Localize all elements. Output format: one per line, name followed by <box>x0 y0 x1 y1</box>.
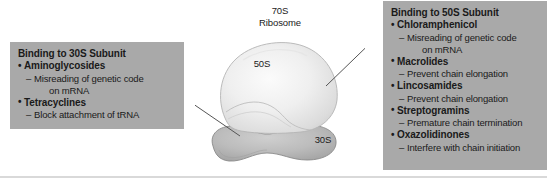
subunit-50s-shape <box>221 43 338 134</box>
drug-effect-continuation: on mRNA <box>18 85 178 97</box>
list-item: •Lincosamides –Prevent chain elongation <box>391 80 541 105</box>
drug-effect-tetracyclines: –Block attachment of tRNA <box>18 109 178 121</box>
dash-icon: – <box>399 142 404 154</box>
ribosome-illustration: 70S Ribosome 50S 30S <box>195 0 365 183</box>
bullet-icon: • <box>391 55 394 68</box>
list-item: •Macrolides –Prevent chain elongation <box>391 56 541 81</box>
list-item: •Streptogramins –Premature chain termina… <box>391 105 541 130</box>
dash-icon: – <box>26 73 31 85</box>
ribosome-70s-label: 70S Ribosome <box>195 5 365 29</box>
subunit-50s-label: 50S <box>240 58 284 70</box>
effect-label: Interfere with chain initiation <box>407 142 520 153</box>
drug-name-streptogramins: •Streptogramins <box>391 105 541 118</box>
drug-label: Oxazolidinones <box>397 129 470 140</box>
dash-icon: – <box>26 109 31 121</box>
list-item: •Aminoglycosides –Misreading of genetic … <box>18 60 178 97</box>
drug-effect-continuation: on mRNA <box>391 44 541 56</box>
antibiotic-ribosome-diagram: Binding to 30S Subunit •Aminoglycosides … <box>0 0 547 183</box>
effect-label: Block attachment of tRNA <box>34 109 139 120</box>
drug-effect-macrolides: –Prevent chain elongation <box>391 68 541 80</box>
bottom-divider <box>0 176 547 178</box>
drug-effect-streptogramins: –Premature chain termination <box>391 117 541 129</box>
list-item: •Tetracyclines –Block attachment of tRNA <box>18 97 178 122</box>
ribosome-70s-line2: Ribosome <box>195 17 365 29</box>
drug-label: Macrolides <box>397 56 448 67</box>
ribosome-70s-line1: 70S <box>195 5 365 17</box>
drug-effect-aminoglycosides: –Misreading of genetic code <box>18 73 178 85</box>
drug-label: Lincosamides <box>397 80 463 91</box>
dash-icon: – <box>399 93 404 105</box>
drug-label: Tetracyclines <box>24 97 86 108</box>
drug-label: Aminoglycosides <box>24 60 105 71</box>
effect-label: Premature chain termination <box>407 117 522 128</box>
bullet-icon: • <box>391 129 394 142</box>
drug-name-chloramphenicol: •Chloramphenicol <box>391 19 541 32</box>
drug-name-lincosamides: •Lincosamides <box>391 80 541 93</box>
callout-title-30s: Binding to 30S Subunit <box>18 47 178 60</box>
bullet-icon: • <box>391 80 394 93</box>
drug-effect-chloramphenicol: –Misreading of genetic code <box>391 32 541 44</box>
drug-name-tetracyclines: •Tetracyclines <box>18 97 178 110</box>
dash-icon: – <box>399 117 404 129</box>
drug-name-aminoglycosides: •Aminoglycosides <box>18 60 178 73</box>
drug-effect-lincosamides: –Prevent chain elongation <box>391 93 541 105</box>
bullet-icon: • <box>18 60 21 73</box>
effect-label: Misreading of genetic code <box>34 73 144 84</box>
callout-box-30s: Binding to 30S Subunit •Aminoglycosides … <box>10 42 184 129</box>
callout-box-50s: Binding to 50S Subunit •Chloramphenicol … <box>383 1 547 170</box>
effect-label: Prevent chain elongation <box>407 93 508 104</box>
bullet-icon: • <box>18 96 21 109</box>
list-item: •Oxazolidinones –Interfere with chain in… <box>391 129 541 154</box>
drug-effect-oxazolidinones: –Interfere with chain initiation <box>391 142 541 154</box>
dash-icon: – <box>399 68 404 80</box>
callout-title-50s: Binding to 50S Subunit <box>391 6 541 19</box>
drug-list-50s: •Chloramphenicol –Misreading of genetic … <box>391 19 541 154</box>
drug-list-30s: •Aminoglycosides –Misreading of genetic … <box>18 60 178 121</box>
effect-label: Misreading of genetic code <box>407 32 517 43</box>
list-item: •Chloramphenicol –Misreading of genetic … <box>391 19 541 56</box>
bullet-icon: • <box>391 19 394 32</box>
dash-icon: – <box>399 32 404 44</box>
drug-name-macrolides: •Macrolides <box>391 56 541 69</box>
drug-label: Streptogramins <box>397 105 470 116</box>
subunit-30s-label: 30S <box>303 134 343 146</box>
drug-label: Chloramphenicol <box>397 19 477 30</box>
drug-name-oxazolidinones: •Oxazolidinones <box>391 129 541 142</box>
bullet-icon: • <box>391 104 394 117</box>
effect-label: Prevent chain elongation <box>407 68 508 79</box>
